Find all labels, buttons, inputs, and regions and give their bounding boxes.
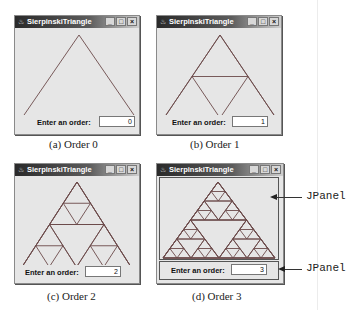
maximize-button[interactable]: □ bbox=[116, 165, 126, 174]
input-panel: Enter an order: 3 bbox=[159, 262, 281, 280]
close-button[interactable]: × bbox=[269, 17, 279, 26]
title-bar[interactable]: ♨ SierpinskiTriangle _ □ × bbox=[15, 16, 139, 28]
sierpinski-triangle-drawing bbox=[159, 177, 279, 260]
title-bar[interactable]: ♨ SierpinskiTriangle _ □ × bbox=[15, 164, 139, 176]
annotation-arrow bbox=[285, 269, 302, 270]
input-panel: Enter an order: 2 bbox=[17, 264, 137, 282]
close-button[interactable]: × bbox=[127, 165, 137, 174]
input-panel: Enter an order: 0 bbox=[17, 114, 137, 132]
drawing-panel bbox=[17, 29, 137, 115]
order-input[interactable]: 0 bbox=[99, 116, 135, 127]
sierpinski-window-order-0: ♨ SierpinskiTriangle _ □ × Enter an orde… bbox=[14, 15, 140, 135]
drawing-panel bbox=[159, 177, 281, 260]
order-input[interactable]: 1 bbox=[232, 116, 268, 127]
annotation-jpanel-input: JPanel bbox=[306, 262, 346, 274]
order-label: Enter an order: bbox=[37, 118, 91, 127]
sierpinski-triangle-drawing bbox=[17, 177, 137, 265]
window-title: SierpinskiTriangle bbox=[27, 16, 92, 28]
input-panel: Enter an order: 1 bbox=[159, 114, 279, 132]
maximize-button[interactable]: □ bbox=[260, 165, 270, 174]
sierpinski-window-order-2: ♨ SierpinskiTriangle _ □ × Enter an orde… bbox=[14, 163, 140, 284]
java-cup-icon: ♨ bbox=[18, 166, 25, 174]
title-bar[interactable]: ♨ SierpinskiTriangle _ □ × bbox=[157, 16, 281, 28]
annotation-arrow bbox=[276, 197, 302, 198]
close-button[interactable]: × bbox=[127, 17, 137, 26]
arrow-head-icon bbox=[278, 266, 285, 272]
sierpinski-triangle-drawing bbox=[17, 29, 137, 115]
window-title: SierpinskiTriangle bbox=[169, 164, 234, 176]
annotation-jpanel-drawing: JPanel bbox=[306, 190, 346, 202]
maximize-button[interactable]: □ bbox=[258, 17, 268, 26]
java-cup-icon: ♨ bbox=[160, 18, 167, 26]
close-button[interactable]: × bbox=[271, 165, 281, 174]
minimize-button[interactable]: _ bbox=[249, 165, 259, 174]
sierpinski-window-order-1: ♨ SierpinskiTriangle _ □ × Enter an orde… bbox=[156, 15, 282, 135]
minimize-button[interactable]: _ bbox=[105, 165, 115, 174]
java-cup-icon: ♨ bbox=[160, 166, 167, 174]
sierpinski-triangle-drawing bbox=[159, 29, 279, 115]
caption-c: (c) Order 2 bbox=[47, 290, 96, 302]
maximize-button[interactable]: □ bbox=[116, 17, 126, 26]
order-label: Enter an order: bbox=[172, 118, 226, 127]
window-title: SierpinskiTriangle bbox=[27, 164, 92, 176]
caption-a: (a) Order 0 bbox=[49, 138, 98, 150]
order-input[interactable]: 3 bbox=[231, 264, 267, 275]
drawing-panel bbox=[17, 177, 137, 265]
order-label: Enter an order: bbox=[171, 266, 225, 275]
sierpinski-window-order-3: ♨ SierpinskiTriangle _ □ × Enter an orde… bbox=[156, 163, 284, 284]
title-bar[interactable]: ♨ SierpinskiTriangle _ □ × bbox=[157, 164, 283, 176]
java-cup-icon: ♨ bbox=[18, 18, 25, 26]
order-label: Enter an order: bbox=[25, 268, 79, 277]
minimize-button[interactable]: _ bbox=[247, 17, 257, 26]
caption-d: (d) Order 3 bbox=[192, 290, 241, 302]
minimize-button[interactable]: _ bbox=[105, 17, 115, 26]
drawing-panel bbox=[159, 29, 279, 115]
window-title: SierpinskiTriangle bbox=[169, 16, 234, 28]
order-input[interactable]: 2 bbox=[85, 266, 121, 277]
caption-b: (b) Order 1 bbox=[190, 138, 239, 150]
